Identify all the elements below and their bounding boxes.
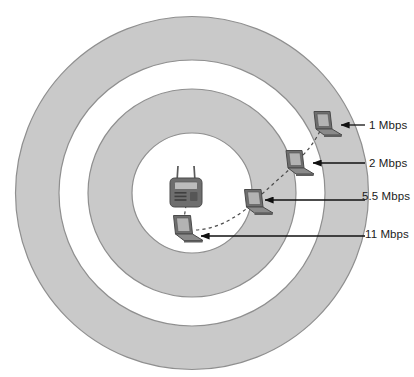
wireless-coverage-diagram [0,0,414,377]
rate-label-5-5mbps: 5.5 Mbps [362,191,410,203]
diagram-canvas: 1 Mbps 2 Mbps 5.5 Mbps 11 Mbps [0,0,414,377]
rate-label-2mbps: 2 Mbps [369,158,407,170]
rate-label-1mbps: 1 Mbps [369,120,407,132]
rate-label-11mbps: 11 Mbps [365,229,409,241]
